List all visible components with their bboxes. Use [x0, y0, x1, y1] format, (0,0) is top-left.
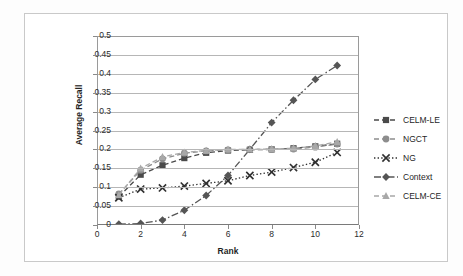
x-tick-mark-2 [184, 225, 185, 229]
legend-label: CELM-CE [399, 191, 441, 201]
x-tick-label-5: 10 [300, 229, 330, 239]
screenshot-root: 00.050.10.150.20.250.30.350.40.450.5 024… [0, 0, 463, 276]
legend-item-celm-le[interactable]: CELM-LE [373, 110, 463, 129]
x-tick-mark-4 [272, 225, 273, 229]
legend-item-celm-ce[interactable]: CELM-CE [373, 186, 463, 205]
legend-item-ng[interactable]: NG [373, 148, 463, 167]
y-tick-mark-1 [93, 206, 97, 207]
x-axis-title: Rank [97, 246, 359, 256]
chart-legend: CELM-LENGCTNGContextCELM-CE [373, 110, 463, 205]
x-tick-label-2: 4 [169, 229, 199, 239]
y-tick-mark-7 [93, 93, 97, 94]
y-tick-label-0: 0 [51, 220, 111, 228]
y-tick-mark-8 [93, 74, 97, 75]
legend-item-context[interactable]: Context [373, 167, 463, 186]
y-tick-mark-5 [93, 131, 97, 132]
y-tick-label-10: 0.5 [51, 31, 111, 39]
x-tick-mark-0 [97, 225, 98, 229]
y-tick-label-2: 0.1 [51, 182, 111, 190]
y-tick-mark-4 [93, 149, 97, 150]
legend-key-triangle-icon [373, 190, 399, 202]
y-tick-label-1: 0.05 [51, 201, 111, 209]
y-tick-mark-2 [93, 187, 97, 188]
x-tick-mark-6 [359, 225, 360, 229]
y-axis-title: Average Recall [74, 55, 84, 175]
legend-key-cross-icon [373, 152, 399, 164]
legend-key-diamond-icon [373, 171, 399, 183]
y-tick-mark-6 [93, 112, 97, 113]
x-tick-label-1: 2 [126, 229, 156, 239]
chart-container: 00.050.10.150.20.250.30.350.40.450.5 024… [24, 13, 448, 262]
legend-label: CELM-LE [399, 115, 440, 125]
x-tick-mark-3 [228, 225, 229, 229]
legend-label: NGCT [399, 134, 427, 144]
y-tick-mark-3 [93, 168, 97, 169]
x-tick-label-3: 6 [213, 229, 243, 239]
y-tick-mark-9 [93, 55, 97, 56]
legend-key-circle-icon [373, 133, 399, 145]
legend-item-ngct[interactable]: NGCT [373, 129, 463, 148]
x-tick-label-6: 12 [344, 229, 374, 239]
x-tick-mark-1 [141, 225, 142, 229]
x-tick-label-0: 0 [82, 229, 112, 239]
plot-frame [97, 36, 359, 225]
x-tick-label-4: 8 [257, 229, 287, 239]
legend-key-square-icon [373, 114, 399, 126]
legend-label: NG [399, 153, 416, 163]
y-tick-mark-10 [93, 36, 97, 37]
x-tick-mark-5 [315, 225, 316, 229]
legend-label: Context [399, 172, 432, 182]
plot-area [97, 36, 359, 225]
